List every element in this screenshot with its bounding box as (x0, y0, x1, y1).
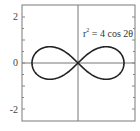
eq-superscript: 2 (86, 27, 89, 33)
plot-area (0, 0, 140, 131)
y-tick-label-2: 2 (2, 12, 18, 22)
y-tick-label-0: 0 (2, 58, 18, 68)
equation-annotation: r2 = 4 cos 2θ (83, 28, 133, 39)
eq-rest: = 4 cos 2θ (89, 28, 133, 39)
y-tick-label-neg2: -2 (2, 105, 18, 115)
